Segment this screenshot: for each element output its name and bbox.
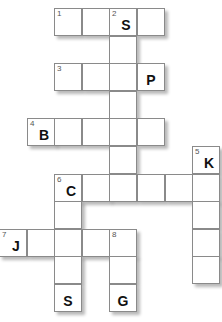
crossword-cell[interactable] (109, 146, 137, 174)
crossword-cell[interactable]: G (109, 284, 137, 312)
crossword-cell[interactable] (54, 256, 82, 284)
crossword-cell[interactable] (137, 118, 165, 146)
crossword-cell[interactable] (82, 174, 110, 202)
crossword-cell[interactable] (82, 8, 110, 36)
crossword-cell[interactable]: 8 (109, 229, 137, 257)
cell-letter: G (110, 294, 136, 308)
clue-number: 6 (57, 176, 61, 184)
clue-number: 7 (2, 231, 6, 239)
crossword-cell[interactable] (27, 229, 55, 257)
crossword-cell[interactable] (137, 174, 165, 202)
crossword-cell[interactable]: 3 (54, 63, 82, 91)
crossword-grid: 12S3P4B5K6C7J8SG (0, 0, 222, 322)
clue-number: 5 (195, 148, 199, 156)
crossword-cell[interactable] (165, 174, 193, 202)
crossword-cell[interactable]: 6C (54, 174, 82, 202)
clue-number: 3 (57, 65, 61, 73)
crossword-cell[interactable] (54, 229, 82, 257)
crossword-cell[interactable] (82, 229, 110, 257)
crossword-cell[interactable] (109, 36, 137, 64)
crossword-cell[interactable]: S (54, 284, 82, 312)
cell-letter: S (55, 294, 81, 308)
cell-letter: J (6, 239, 26, 253)
crossword-cell[interactable]: P (137, 63, 165, 91)
crossword-cell[interactable] (109, 256, 137, 284)
crossword-cell[interactable]: 4B (27, 118, 55, 146)
crossword-cell[interactable] (82, 63, 110, 91)
crossword-cell[interactable] (109, 118, 137, 146)
clue-number: 1 (57, 10, 61, 18)
crossword-cell[interactable] (109, 63, 137, 91)
crossword-cell[interactable] (192, 201, 220, 229)
crossword-cell[interactable]: 5K (192, 146, 220, 174)
crossword-cell[interactable] (82, 118, 110, 146)
crossword-cell[interactable]: 7J (0, 229, 27, 257)
crossword-cell[interactable] (109, 174, 137, 202)
cell-letter: B (34, 128, 54, 142)
crossword-cell[interactable] (192, 229, 220, 257)
crossword-cell[interactable] (109, 91, 137, 119)
crossword-cell[interactable] (54, 118, 82, 146)
clue-number: 4 (30, 120, 34, 128)
cell-letter: K (199, 156, 219, 170)
crossword-cell[interactable] (54, 201, 82, 229)
crossword-cell[interactable] (192, 174, 220, 202)
crossword-cell[interactable]: 1 (54, 8, 82, 36)
cell-letter: S (116, 18, 136, 32)
crossword-cell[interactable] (192, 256, 220, 284)
crossword-cell[interactable]: 2S (109, 8, 137, 36)
clue-number: 8 (112, 231, 116, 239)
cell-letter: C (61, 184, 81, 198)
cell-letter: P (138, 73, 164, 87)
crossword-cell[interactable] (137, 8, 165, 36)
clue-number: 2 (112, 10, 116, 18)
